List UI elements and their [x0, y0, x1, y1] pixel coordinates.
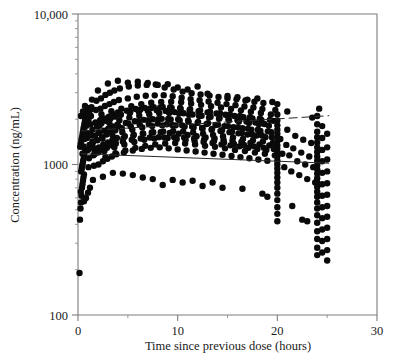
scatter-point	[138, 101, 144, 107]
concentration-vs-time-scatter-figure: 100100010,000 0102030 Time since previou…	[0, 0, 394, 360]
scatter-point	[192, 141, 198, 147]
scatter-point	[107, 114, 113, 120]
scatter-point	[136, 113, 142, 119]
scatter-point	[228, 106, 234, 112]
scatter-point	[95, 87, 101, 93]
scatter-point	[319, 123, 325, 129]
scatter-point	[274, 204, 280, 210]
scatter-point	[252, 149, 258, 155]
scatter-point	[289, 203, 295, 209]
scatter-point	[140, 131, 146, 137]
scatter-point	[162, 140, 168, 146]
scatter-point	[132, 145, 138, 151]
scatter-point	[90, 177, 96, 183]
scatter-point	[227, 111, 233, 117]
scatter-point	[206, 114, 212, 120]
scatter-point	[319, 135, 325, 141]
scatter-point	[181, 134, 187, 140]
scatter-point	[192, 148, 198, 154]
scatter-point	[255, 127, 261, 133]
y-tick-label: 100	[49, 309, 68, 323]
scatter-point	[324, 192, 330, 198]
scatter-point	[220, 133, 226, 139]
scatter-point	[262, 150, 268, 156]
scatter-point	[242, 148, 248, 154]
scatter-point	[245, 125, 251, 131]
scatter-point	[308, 140, 314, 146]
scatter-point	[274, 190, 280, 196]
scatter-point	[134, 94, 140, 100]
scatter-point	[274, 111, 280, 117]
scatter-point	[115, 78, 121, 84]
scatter-point	[199, 125, 205, 131]
scatter-point	[85, 164, 91, 170]
scatter-point	[234, 94, 240, 100]
scatter-point	[97, 117, 103, 123]
y-tick-label: 10,000	[34, 8, 68, 22]
scatter-point	[174, 146, 180, 152]
scatter-point	[306, 153, 312, 159]
scatter-point	[281, 164, 287, 170]
scatter-point	[147, 105, 153, 111]
scatter-point	[223, 101, 229, 107]
scatter-point	[250, 137, 256, 143]
scatter-point	[284, 127, 290, 133]
scatter-point	[77, 216, 83, 222]
scatter-point	[184, 86, 190, 92]
scatter-point	[229, 129, 235, 135]
scatter-point	[296, 172, 302, 178]
scatter-point	[283, 142, 289, 148]
scatter-point	[87, 106, 93, 112]
scatter-point	[141, 137, 147, 143]
scatter-point	[194, 83, 200, 89]
scatter-point	[286, 152, 292, 158]
scatter-point	[176, 110, 182, 116]
scatter-point	[161, 134, 167, 140]
scatter-point	[101, 148, 107, 154]
scatter-point	[231, 141, 237, 147]
scatter-point	[182, 140, 188, 146]
x-tick-label: 30	[371, 324, 384, 338]
scatter-point	[300, 137, 306, 143]
scatter-point	[324, 247, 330, 253]
scatter-point	[197, 91, 203, 97]
scatter-point	[179, 179, 185, 185]
scatter-point	[110, 138, 116, 144]
scatter-point	[218, 104, 224, 110]
scatter-point	[156, 110, 162, 116]
scatter-point	[178, 99, 184, 105]
scatter-point	[106, 120, 112, 126]
scatter-point	[151, 135, 157, 141]
scatter-point	[146, 111, 152, 117]
scatter-point	[274, 185, 280, 191]
scatter-point	[304, 176, 310, 182]
scatter-point	[82, 103, 88, 109]
scatter-point	[201, 137, 207, 143]
scatter-point	[99, 135, 105, 141]
scatter-point	[166, 110, 172, 116]
scatter-point	[255, 156, 261, 162]
scatter-point	[202, 143, 208, 149]
scatter-point	[324, 180, 330, 186]
scatter-point	[197, 107, 203, 113]
scatter-point	[168, 99, 174, 105]
scatter-point	[122, 147, 128, 153]
scatter-point	[150, 176, 156, 182]
scatter-point	[204, 91, 210, 97]
scatter-point	[186, 112, 192, 118]
scatter-point	[201, 149, 207, 155]
scatter-point	[80, 108, 86, 114]
scatter-point	[268, 111, 274, 117]
scatter-point	[314, 245, 320, 251]
scatter-point	[169, 93, 175, 99]
scatter-point	[235, 124, 241, 130]
scatter-point	[143, 93, 149, 99]
scatter-point	[145, 80, 151, 86]
scatter-point	[216, 116, 222, 122]
scatter-point	[96, 123, 102, 129]
scatter-point	[215, 94, 221, 100]
scatter-point	[290, 145, 296, 151]
scatter-point	[116, 117, 122, 123]
scatter-point	[254, 95, 260, 101]
scatter-point	[125, 120, 131, 126]
